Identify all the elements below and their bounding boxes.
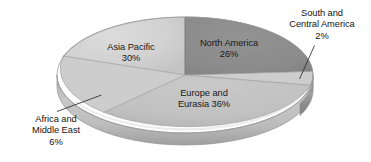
callout-label-south-central-america-line1: South and — [274, 8, 370, 19]
slice-label-asia-pacific: Asia Pacific 30% — [89, 42, 173, 65]
slice-label-europe-eurasia: Europe and Eurasia 36% — [150, 88, 258, 111]
callout-label-africa-middle-east-line1: Africa and — [6, 114, 106, 125]
pie-chart-figure: North America 26% Asia Pacific 30% Europ… — [0, 0, 371, 162]
slice-label-europe-eurasia-line2: Eurasia 36% — [150, 99, 258, 110]
callout-label-africa-middle-east: Africa and Middle East 6% — [6, 114, 106, 148]
slice-label-north-america-line1: North America — [183, 38, 275, 49]
slice-label-north-america-line2: 26% — [183, 49, 275, 60]
callout-label-africa-middle-east-line3: 6% — [6, 137, 106, 148]
slice-label-north-america: North America 26% — [183, 38, 275, 61]
callout-label-south-central-america: South and Central America 2% — [274, 8, 370, 42]
slice-label-asia-pacific-line1: Asia Pacific — [89, 42, 173, 53]
callout-label-africa-middle-east-line2: Middle East — [6, 125, 106, 136]
callout-label-south-central-america-line2: Central America — [274, 19, 370, 30]
slice-label-asia-pacific-line2: 30% — [89, 53, 173, 64]
slice-label-europe-eurasia-line1: Europe and — [150, 88, 258, 99]
callout-label-south-central-america-line3: 2% — [274, 31, 370, 42]
